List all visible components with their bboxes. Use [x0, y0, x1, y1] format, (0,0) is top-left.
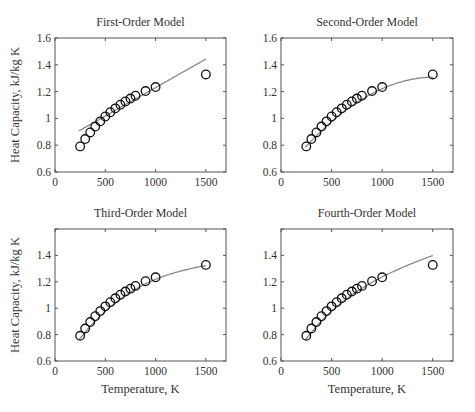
subplot-title: Second-Order Model	[316, 15, 418, 29]
axes-frame	[55, 229, 226, 361]
y-tick-label: 1.4	[37, 59, 52, 71]
data-point-marker	[312, 318, 321, 327]
y-tick-label: 1	[45, 112, 51, 124]
x-tick-label: 500	[97, 365, 115, 377]
y-tick-label: 1.4	[37, 249, 52, 261]
x-tick-label: 1000	[144, 176, 167, 188]
x-tick-label: 1000	[371, 365, 394, 377]
y-tick-label: 1	[45, 302, 51, 314]
y-tick-label: 1.2	[37, 276, 52, 288]
y-tick-label: 0.6	[263, 166, 278, 178]
x-tick-label: 1500	[421, 365, 444, 377]
y-tick-label: 1	[271, 302, 277, 314]
y-tick-label: 0.6	[37, 166, 52, 178]
x-tick-label: 0	[52, 365, 58, 377]
x-tick-label: 0	[278, 176, 284, 188]
x-axis-label: Temperature, K	[328, 382, 406, 396]
data-point-marker	[91, 122, 100, 131]
fit-curve	[305, 256, 433, 340]
subplot-3: Third-Order Model0500100015000.60.811.21…	[8, 206, 226, 396]
y-tick-label: 1.6	[37, 32, 52, 44]
y-axis-label: Heat Capacity, kJ/kg K	[8, 237, 22, 353]
axes-frame	[281, 229, 453, 361]
axes-frame	[281, 38, 453, 172]
subplot-2: Second-Order Model0500100015000.60.811.2…	[263, 15, 453, 188]
y-tick-label: 0.8	[263, 139, 278, 151]
y-tick-label: 0.8	[37, 139, 52, 151]
fit-curve	[79, 266, 206, 340]
y-tick-label: 1.2	[263, 86, 278, 98]
subplot-4: Fourth-Order Model0500100015000.60.811.2…	[263, 206, 453, 396]
axes-frame	[55, 38, 226, 172]
y-tick-label: 1.2	[263, 276, 278, 288]
y-tick-label: 0.6	[37, 355, 52, 367]
subplot-title: Third-Order Model	[94, 206, 188, 220]
y-tick-label: 1	[271, 112, 277, 124]
y-tick-label: 1.6	[263, 32, 278, 44]
data-point-marker	[91, 312, 100, 321]
y-tick-label: 1.4	[263, 249, 278, 261]
x-tick-label: 500	[323, 176, 341, 188]
data-point-marker	[151, 273, 160, 282]
data-point-marker	[353, 94, 362, 103]
x-axis-label: Temperature, K	[101, 382, 179, 396]
x-tick-label: 1500	[194, 176, 217, 188]
data-point-marker	[428, 261, 437, 270]
y-tick-label: 0.8	[263, 329, 278, 341]
x-tick-label: 1000	[371, 176, 394, 188]
data-point-marker	[96, 307, 105, 316]
data-point-marker	[317, 312, 326, 321]
subplot-title: Fourth-Order Model	[318, 206, 417, 220]
x-tick-label: 0	[278, 365, 284, 377]
data-point-marker	[317, 122, 326, 131]
subplot-title: First-Order Model	[96, 15, 185, 29]
data-point-marker	[86, 128, 95, 137]
x-tick-label: 1500	[194, 365, 217, 377]
x-tick-label: 0	[52, 176, 58, 188]
x-tick-label: 1500	[421, 176, 444, 188]
subplot-1: First-Order Model0500100015000.60.811.21…	[8, 15, 226, 188]
y-tick-label: 1.4	[263, 59, 278, 71]
x-tick-label: 500	[323, 365, 341, 377]
y-axis-label: Heat Capacity, kJ/kg K	[8, 47, 22, 163]
data-point-marker	[322, 117, 331, 126]
x-tick-label: 500	[97, 176, 115, 188]
data-point-marker	[202, 70, 211, 79]
y-tick-label: 1.2	[37, 86, 52, 98]
data-point-marker	[202, 261, 211, 270]
data-point-marker	[322, 307, 331, 316]
y-tick-label: 0.6	[263, 355, 278, 367]
x-tick-label: 1000	[144, 365, 167, 377]
subplot-grid: First-Order Model0500100015000.60.811.21…	[0, 0, 475, 412]
figure: First-Order Model0500100015000.60.811.21…	[0, 0, 475, 412]
data-point-marker	[86, 318, 95, 327]
y-tick-label: 0.8	[37, 329, 52, 341]
